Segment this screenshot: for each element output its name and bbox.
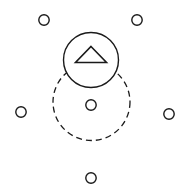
top-left-node[interactable] (39, 15, 49, 25)
right-node[interactable] (164, 109, 174, 119)
diagram-canvas (0, 0, 187, 195)
radial-node-diagram (0, 0, 187, 195)
left-node[interactable] (16, 107, 26, 117)
marker-circle (64, 33, 119, 88)
center-node[interactable] (86, 100, 96, 110)
up-arrow-marker[interactable] (64, 33, 119, 88)
bottom-node[interactable] (86, 173, 96, 183)
top-right-node[interactable] (132, 15, 142, 25)
